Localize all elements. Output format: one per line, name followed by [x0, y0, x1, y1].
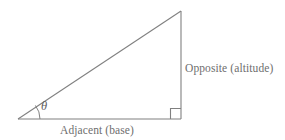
- theta-angle-label: θ: [41, 100, 47, 113]
- opposite-side-label: Opposite (altitude): [185, 62, 273, 75]
- right-angle-marker: [171, 109, 182, 120]
- right-triangle-figure: Opposite (altitude) Adjacent (base) θ: [0, 0, 285, 140]
- adjacent-side-label: Adjacent (base): [60, 124, 134, 137]
